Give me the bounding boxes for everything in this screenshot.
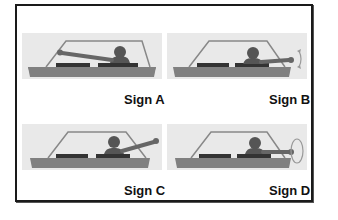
car-circular-motion-icon — [167, 124, 307, 170]
car-up-down-motion-icon — [167, 33, 307, 79]
sign-d-illustration — [167, 124, 307, 170]
diagram-frame: Sign A Sign B Sign C — [15, 4, 313, 202]
car-arm-extended-out-icon — [22, 33, 162, 79]
sign-d-label: Sign D — [269, 183, 310, 198]
sign-a-illustration — [22, 33, 162, 79]
sign-b-illustration — [167, 33, 307, 79]
car-arm-raised-icon — [22, 124, 162, 170]
sign-c-label: Sign C — [124, 183, 165, 198]
sign-b-label: Sign B — [269, 92, 310, 107]
sign-a-label: Sign A — [124, 92, 165, 107]
sign-c-illustration — [22, 124, 162, 170]
